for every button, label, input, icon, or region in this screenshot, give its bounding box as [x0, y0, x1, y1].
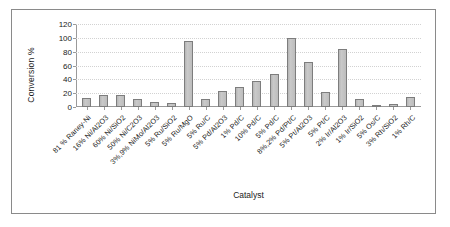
bar-slot [163, 24, 180, 107]
bar-slot [368, 24, 385, 107]
y-tick-label: 0 [68, 103, 72, 112]
bar[interactable] [270, 74, 279, 107]
bar-slot [385, 24, 402, 107]
bar-slot [112, 24, 129, 107]
bar-slot [317, 24, 334, 107]
bar[interactable] [252, 81, 261, 107]
bar-slot [248, 24, 265, 107]
y-tick-label: 120 [59, 20, 72, 29]
bar[interactable] [338, 49, 347, 107]
bar-slot [214, 24, 231, 107]
bar-slot [351, 24, 368, 107]
bar[interactable] [355, 99, 364, 107]
bar[interactable] [218, 91, 227, 107]
y-tick-mark [73, 107, 76, 108]
y-tick-label: 20 [63, 89, 72, 98]
bar[interactable] [235, 87, 244, 107]
x-label-slot: 2% Ir/Al2O3 [334, 110, 351, 188]
y-tick-label: 60 [63, 61, 72, 70]
x-label-slot: 5% Ru/C [197, 110, 214, 188]
y-tick-label: 100 [59, 33, 72, 42]
bar-slot [266, 24, 283, 107]
bar-slot [95, 24, 112, 107]
bar-slot [180, 24, 197, 107]
bar-slot [300, 24, 317, 107]
bar[interactable] [82, 98, 91, 107]
x-label-slot: 5% Pt/Al2O3 [300, 110, 317, 188]
bar-slot [78, 24, 95, 107]
bar-slot [402, 24, 419, 107]
bar-slot [334, 24, 351, 107]
bar[interactable] [321, 92, 330, 107]
y-tick-label: 40 [63, 75, 72, 84]
x-label-slot: 1% Rh/C [402, 110, 419, 188]
x-label-slot: 3%,9% NiMo/Al2O3 [146, 110, 163, 188]
y-axis-title: Conversion % [26, 30, 36, 120]
bar[interactable] [99, 95, 108, 107]
x-axis-title: Catalyst [76, 190, 421, 200]
bar-slot [283, 24, 300, 107]
bar[interactable] [184, 41, 193, 107]
bar-series [76, 24, 421, 107]
bar[interactable] [116, 95, 125, 107]
bar[interactable] [304, 62, 313, 107]
plot-area: 020406080100120 [76, 24, 421, 107]
bar-slot [197, 24, 214, 107]
bar-slot [129, 24, 146, 107]
bar[interactable] [406, 97, 415, 107]
bar-slot [231, 24, 248, 107]
bar-slot [146, 24, 163, 107]
bar[interactable] [287, 38, 296, 107]
x-axis-tick-labels: 81 % Raney-Ni16% Ni/Al2O360% Ni/SiO250% … [76, 110, 421, 188]
x-label-slot: 5% Ru/SiO2 [163, 110, 180, 188]
chart-frame: Conversion % 020406080100120 81 % Raney-… [11, 9, 436, 214]
y-tick-label: 80 [63, 47, 72, 56]
x-label-slot: 5% Os/C [368, 110, 385, 188]
x-label-slot: 5% Pt/C [317, 110, 334, 188]
bar[interactable] [201, 99, 210, 107]
x-label-slot: 8%,2% Pd/Pt/C [283, 110, 300, 188]
chart-figure: Conversion % 020406080100120 81 % Raney-… [0, 0, 450, 227]
bar[interactable] [133, 99, 142, 107]
x-label-slot: 1% Pd/C [231, 110, 248, 188]
x-label-slot: 3% Rh/SiO2 [385, 110, 402, 188]
